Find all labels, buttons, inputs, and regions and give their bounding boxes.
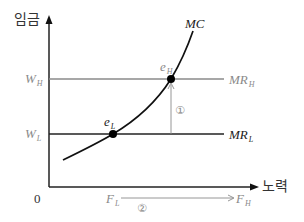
- x-axis-arrowhead-icon: [250, 184, 259, 191]
- origin-label: 0: [34, 192, 41, 205]
- effort-high-main: F: [236, 191, 244, 206]
- effort-low-label: FL: [106, 192, 119, 208]
- y-axis-arrowhead-icon: [46, 15, 53, 24]
- labor-effort-diagram: 임금 노력 0 WH WL MRH MRL MC eH eL ① FL FH ②: [0, 0, 304, 222]
- wage-high-label: WH: [25, 72, 43, 88]
- effort-low-sub: L: [115, 199, 119, 208]
- wage-high-sub: H: [37, 79, 43, 88]
- effort-increase-marker: ②: [137, 203, 147, 214]
- mr-low-main: MR: [229, 127, 248, 142]
- mc-curve: [63, 31, 193, 160]
- eH-main: e: [160, 59, 166, 74]
- effort-high-sub: H: [245, 199, 251, 208]
- wage-increase-marker: ①: [175, 105, 185, 116]
- wage-low-sub: L: [37, 134, 41, 143]
- wage-low-label: WL: [25, 127, 41, 143]
- equilibrium-eH-label: eH: [160, 60, 173, 76]
- equilibrium-point-eL: [109, 130, 117, 138]
- equilibrium-point-eH: [167, 75, 175, 83]
- mr-high-main: MR: [229, 72, 248, 87]
- diagram-canvas: [0, 0, 304, 222]
- wage-high-main: W: [25, 71, 36, 86]
- mr-low-label: MRL: [229, 128, 253, 144]
- mr-low-sub: L: [249, 135, 253, 144]
- eH-sub: H: [167, 67, 173, 76]
- y-axis-label: 임금: [14, 12, 40, 26]
- effort-low-main: F: [106, 191, 114, 206]
- equilibrium-eL-label: eL: [104, 115, 115, 131]
- mr-high-label: MRH: [229, 73, 255, 89]
- mc-curve-label: MC: [185, 17, 205, 30]
- eL-main: e: [104, 114, 110, 129]
- eL-sub: L: [111, 122, 115, 131]
- effort-high-label: FH: [236, 192, 251, 208]
- x-axis-label: 노력: [262, 179, 288, 193]
- wage-low-main: W: [25, 126, 36, 141]
- mr-high-sub: H: [249, 80, 255, 89]
